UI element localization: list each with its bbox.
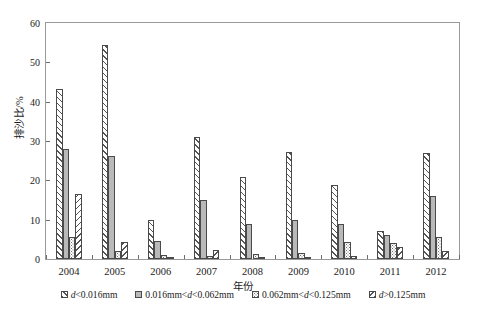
legend-swatch-series2: [135, 291, 142, 298]
x-tick-mark: [321, 255, 322, 259]
legend-item-3: 0.062mm<d<0.125mm: [252, 289, 351, 300]
y-tick-label: 60: [12, 18, 40, 29]
x-tick-mark: [459, 255, 460, 259]
legend-item-4: d>0.125mm: [369, 289, 426, 300]
bar-2007-series4: [213, 250, 219, 259]
x-tick-label-2012: 2012: [406, 266, 466, 277]
bar-2005-series4: [121, 242, 127, 259]
plot-inner: 0102030405060200420052006200720082009201…: [46, 23, 459, 259]
y-tick-label: 0: [12, 254, 40, 265]
y-tick-mark: [46, 141, 50, 142]
legend-label-series1: d<0.016mm: [71, 289, 118, 300]
legend-label-series2: 0.016mm<d<0.062mm: [145, 289, 234, 300]
legend-item-1: d<0.016mm: [61, 289, 118, 300]
bar-2006-series4: [167, 257, 173, 259]
bar-2009-series4: [305, 257, 311, 259]
bar-2004-series4: [75, 194, 81, 259]
y-tick-mark: [46, 180, 50, 181]
y-tick-mark: [46, 220, 50, 221]
x-tick-mark: [367, 255, 368, 259]
chart-legend: d<0.016mm0.016mm<d<0.062mm0.062mm<d<0.12…: [0, 289, 486, 300]
plot-area: 0102030405060200420052006200720082009201…: [45, 22, 460, 260]
y-tick-label: 30: [12, 136, 40, 147]
legend-swatch-series4: [369, 291, 376, 298]
y-tick-label: 20: [12, 175, 40, 186]
legend-label-series3: 0.062mm<d<0.125mm: [262, 289, 351, 300]
legend-swatch-series3: [252, 291, 259, 298]
y-tick-label: 50: [12, 57, 40, 68]
x-tick-mark: [230, 255, 231, 259]
x-tick-mark: [184, 255, 185, 259]
y-tick-label: 40: [12, 96, 40, 107]
bar-2010-series4: [351, 256, 357, 259]
bar-2008-series4: [259, 257, 265, 259]
legend-swatch-series1: [61, 291, 68, 298]
bar-2011-series4: [397, 247, 403, 259]
bar-chart: 排沙比/% 0102030405060200420052006200720082…: [0, 0, 486, 313]
bar-2007-series2: [200, 200, 206, 259]
legend-item-2: 0.016mm<d<0.062mm: [135, 289, 234, 300]
x-tick-mark: [46, 255, 47, 259]
legend-label-series4: d>0.125mm: [379, 289, 426, 300]
x-tick-mark: [275, 255, 276, 259]
y-tick-mark: [46, 102, 50, 103]
bar-2012-series4: [442, 251, 448, 259]
bar-2005-series2: [108, 156, 114, 259]
y-tick-label: 10: [12, 214, 40, 225]
x-tick-mark: [92, 255, 93, 259]
x-tick-mark: [138, 255, 139, 259]
x-tick-mark: [413, 255, 414, 259]
y-tick-mark: [46, 62, 50, 63]
